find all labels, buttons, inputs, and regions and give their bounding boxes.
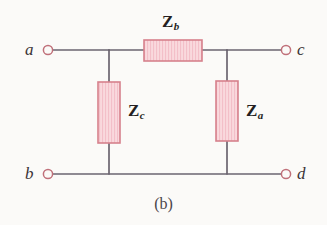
impedance-za-body (216, 81, 238, 141)
terminal-circle-d (281, 169, 290, 178)
node-label-a: a (25, 41, 34, 58)
impedance-label-za: Za (246, 102, 263, 121)
impedance-zc (98, 82, 120, 143)
impedance-label-zb-subscript: b (174, 20, 180, 32)
circuit-schematic-canvas (0, 0, 327, 225)
impedance-za (216, 81, 238, 141)
impedance-zb (144, 40, 202, 61)
circuit-figure: a c b d Zb Zc Za (b) (0, 0, 327, 225)
node-label-c: c (297, 41, 305, 58)
impedance-label-zc-subscript: c (140, 109, 145, 121)
impedance-label-za-subscript: a (258, 109, 264, 121)
impedance-label-zb-symbol: Z (162, 12, 173, 31)
impedance-label-zc: Zc (128, 102, 145, 121)
impedance-zb-body (144, 40, 202, 61)
node-label-b: b (25, 165, 34, 182)
impedance-label-zc-symbol: Z (128, 101, 139, 120)
impedance-label-za-symbol: Z (246, 101, 257, 120)
terminal-circle-c (281, 45, 290, 54)
figure-caption: (b) (0, 196, 327, 212)
impedance-label-zb: Zb (162, 13, 179, 32)
node-label-d: d (297, 165, 306, 182)
impedance-zc-body (98, 82, 120, 143)
terminal-circle-a (43, 45, 52, 54)
terminal-circle-b (43, 169, 52, 178)
